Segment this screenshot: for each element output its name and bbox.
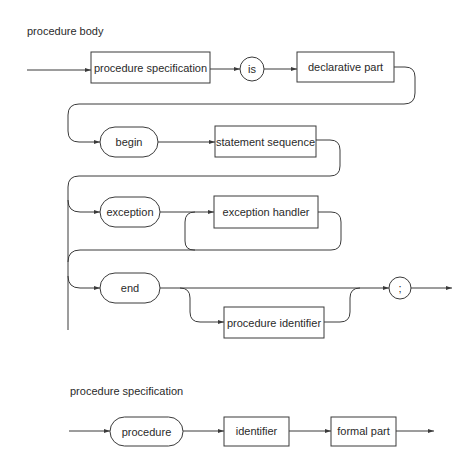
procedure-specification-node[interactable]: procedure specification (91, 52, 210, 83)
procedure-specification-title: procedure specification (70, 385, 183, 397)
svg-text:;: ; (398, 282, 401, 294)
end-keyword-node[interactable]: end (100, 273, 160, 303)
procedure-keyword-node[interactable]: procedure (110, 417, 183, 446)
branch-to-end (68, 276, 100, 288)
formal-part-node[interactable]: formal part (331, 417, 396, 446)
statement-sequence-node[interactable]: statement sequence (215, 126, 316, 157)
svg-text:formal part: formal part (337, 425, 390, 437)
svg-text:end: end (121, 282, 139, 294)
svg-text:procedure identifier: procedure identifier (227, 317, 322, 329)
svg-text:exception: exception (106, 206, 153, 218)
exception-handler-node[interactable]: exception handler (214, 196, 318, 228)
svg-text:statement sequence: statement sequence (216, 136, 315, 148)
semicolon-terminal-node[interactable]: ; (389, 277, 411, 299)
syntax-diagram-canvas: procedure body procedure specification i… (0, 0, 473, 458)
branch-to-exception (68, 200, 100, 212)
svg-text:begin: begin (116, 136, 143, 148)
procedure-identifier-node[interactable]: procedure identifier (224, 307, 324, 338)
procedure-body-title: procedure body (27, 25, 104, 37)
begin-keyword-node[interactable]: begin (100, 127, 158, 157)
svg-text:declarative part: declarative part (308, 61, 383, 73)
identifier-node[interactable]: identifier (224, 417, 289, 446)
svg-text:procedure specification: procedure specification (94, 62, 207, 74)
svg-text:identifier: identifier (236, 425, 278, 437)
is-keyword-node[interactable]: is (240, 57, 264, 81)
exception-keyword-node[interactable]: exception (100, 197, 160, 227)
optional-branch-in (180, 288, 224, 322)
svg-text:exception handler: exception handler (223, 206, 310, 218)
exception-exit-connector (68, 250, 195, 262)
optional-branch-out (324, 288, 360, 322)
procedure-specification-diagram: procedure specification procedure identi… (69, 385, 434, 446)
procedure-body-diagram: procedure body procedure specification i… (27, 25, 452, 338)
declarative-part-node[interactable]: declarative part (297, 52, 394, 82)
svg-text:is: is (248, 63, 256, 75)
svg-text:procedure: procedure (122, 426, 172, 438)
